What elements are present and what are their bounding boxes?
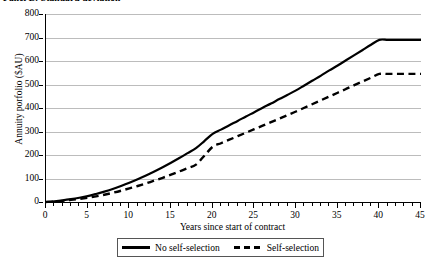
legend-label: No self-selection <box>155 243 220 253</box>
x-axis-tick-minor <box>162 203 163 206</box>
plot-area <box>45 14 421 203</box>
x-axis-tick-minor <box>95 203 96 206</box>
series-lines <box>46 14 421 202</box>
x-axis-title: Years since start of contract <box>45 222 420 232</box>
x-axis-tick-major <box>170 203 171 208</box>
x-axis-tick-minor <box>62 203 63 206</box>
x-axis-tick-major <box>212 203 213 208</box>
x-axis-tick-minor <box>203 203 204 206</box>
legend-entry: Self-selection <box>234 243 319 253</box>
x-axis-tick-minor <box>328 203 329 206</box>
x-axis-tick-label: 25 <box>238 210 268 220</box>
legend-line-swatch-solid <box>122 246 150 249</box>
x-axis-tick-major <box>87 203 88 208</box>
x-axis-tick-major <box>337 203 338 208</box>
x-axis-tick-label: 10 <box>113 210 143 220</box>
series-line <box>46 39 421 202</box>
y-axis-tick-mark <box>39 38 43 39</box>
panel-title: Panel B: Standard deviation <box>3 0 121 3</box>
y-axis-tick-mark <box>39 179 43 180</box>
x-axis-tick-minor <box>312 203 313 206</box>
x-axis-tick-minor <box>220 203 221 206</box>
x-axis-tick-minor <box>412 203 413 206</box>
x-axis-tick-minor <box>262 203 263 206</box>
series-line <box>46 74 421 202</box>
x-axis-tick-minor <box>303 203 304 206</box>
figure-container: Panel B: Standard deviation Annuity porf… <box>0 0 430 264</box>
x-axis-tick-major <box>128 203 129 208</box>
x-axis-tick-labels: 051015202530354045 <box>45 210 420 222</box>
y-axis-tick-mark <box>39 155 43 156</box>
x-axis-tick-label: 45 <box>405 210 430 220</box>
x-axis-tick-major <box>295 203 296 208</box>
x-axis-tick-label: 20 <box>197 210 227 220</box>
x-axis-tick-label: 40 <box>363 210 393 220</box>
legend-entry: No self-selection <box>122 243 220 253</box>
y-axis-tick-mark <box>39 202 43 203</box>
x-axis-tick-major <box>378 203 379 208</box>
x-axis-tick-minor <box>103 203 104 206</box>
x-axis-tick-minor <box>287 203 288 206</box>
x-axis-tick-marks <box>45 203 420 209</box>
x-axis-tick-minor <box>145 203 146 206</box>
x-axis-tick-label: 0 <box>30 210 60 220</box>
x-axis-tick-minor <box>245 203 246 206</box>
x-axis-tick-label: 15 <box>155 210 185 220</box>
x-axis-tick-label: 35 <box>322 210 352 220</box>
x-axis-tick-minor <box>237 203 238 206</box>
x-axis-tick-minor <box>195 203 196 206</box>
x-axis-tick-minor <box>403 203 404 206</box>
x-axis-tick-minor <box>278 203 279 206</box>
x-axis-tick-minor <box>387 203 388 206</box>
x-axis-tick-minor <box>120 203 121 206</box>
x-axis-tick-minor <box>395 203 396 206</box>
x-axis-tick-minor <box>270 203 271 206</box>
y-axis-tick-mark <box>39 61 43 62</box>
x-axis-tick-minor <box>70 203 71 206</box>
x-axis-tick-major <box>45 203 46 208</box>
x-axis-tick-label: 30 <box>280 210 310 220</box>
x-axis-tick-minor <box>228 203 229 206</box>
x-axis-tick-minor <box>353 203 354 206</box>
y-axis-tick-marks <box>0 14 45 202</box>
x-axis-tick-major <box>420 203 421 208</box>
legend: No self-selectionSelf-selection <box>117 238 324 257</box>
x-axis-tick-minor <box>187 203 188 206</box>
y-axis-tick-mark <box>39 132 43 133</box>
x-axis-tick-minor <box>320 203 321 206</box>
x-axis-tick-minor <box>345 203 346 206</box>
x-axis-tick-minor <box>78 203 79 206</box>
legend-label: Self-selection <box>267 243 319 253</box>
x-axis-tick-minor <box>137 203 138 206</box>
legend-line-swatch-dashed <box>234 246 262 249</box>
x-axis-tick-minor <box>153 203 154 206</box>
x-axis-tick-minor <box>112 203 113 206</box>
y-axis-tick-mark <box>39 14 43 15</box>
x-axis-tick-major <box>253 203 254 208</box>
x-axis-tick-minor <box>178 203 179 206</box>
x-axis-tick-minor <box>370 203 371 206</box>
y-axis-tick-mark <box>39 85 43 86</box>
x-axis-tick-minor <box>53 203 54 206</box>
y-axis-tick-mark <box>39 108 43 109</box>
x-axis-tick-label: 5 <box>72 210 102 220</box>
x-axis-tick-minor <box>362 203 363 206</box>
